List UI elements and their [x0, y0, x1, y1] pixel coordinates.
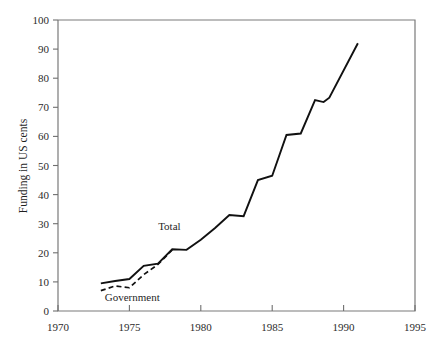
frame-outline	[58, 20, 415, 311]
annotation-government: Government	[105, 291, 160, 303]
x-tick-label: 1985	[261, 321, 284, 333]
y-tick-label: 0	[44, 305, 50, 317]
chart-canvas: 100 90 80 70 60 50 40 30 20 10 0 1970 19…	[0, 0, 441, 347]
y-tick-label: 30	[38, 218, 50, 230]
y-tick-label: 90	[38, 43, 50, 55]
annotation-total: Total	[158, 220, 180, 232]
x-axis-ticks	[58, 305, 415, 311]
y-tick-label: 40	[38, 189, 50, 201]
series-line-total	[101, 43, 358, 283]
chart-figure: 100 90 80 70 60 50 40 30 20 10 0 1970 19…	[0, 0, 441, 347]
x-tick-label: 1975	[118, 321, 141, 333]
x-tick-label: 1970	[47, 321, 70, 333]
y-tick-label: 60	[38, 130, 50, 142]
plot-frame	[58, 20, 415, 311]
y-tick-label: 70	[38, 101, 50, 113]
series-annotations: Total Government	[105, 220, 181, 303]
x-tick-label: 1995	[404, 321, 427, 333]
x-tick-label: 1990	[333, 321, 356, 333]
x-tick-label: 1980	[190, 321, 213, 333]
y-tick-label: 100	[33, 14, 50, 26]
series-line-government	[101, 250, 172, 291]
y-tick-label: 20	[38, 247, 50, 259]
x-axis-tick-labels: 1970 1975 1980 1985 1990 1995	[47, 321, 427, 333]
y-tick-label: 50	[38, 160, 50, 172]
y-tick-label: 80	[38, 72, 50, 84]
data-series-group	[101, 43, 358, 290]
y-axis-title: Funding in US cents	[17, 118, 30, 213]
y-axis-ticks	[53, 20, 58, 311]
y-axis-tick-labels: 100 90 80 70 60 50 40 30 20 10 0	[33, 14, 50, 317]
y-tick-label: 10	[38, 276, 50, 288]
